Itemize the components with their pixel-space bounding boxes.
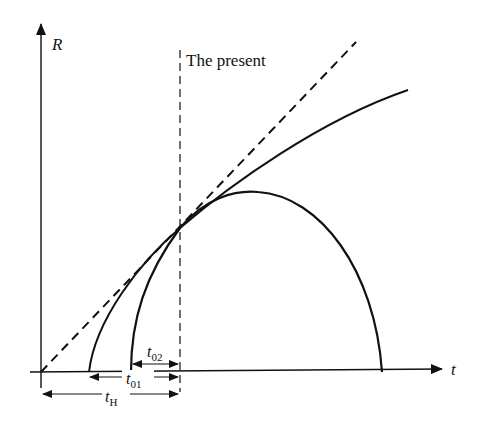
- x-axis-label: t: [451, 360, 457, 379]
- present-label: The present: [186, 51, 266, 70]
- t02-label: t02: [147, 343, 162, 363]
- empty-universe-line: [41, 42, 356, 372]
- y-axis-label: R: [51, 35, 63, 54]
- closed-universe-curve: [131, 192, 382, 372]
- cosmology-diagram: R t The present t02 t01 tH: [0, 0, 480, 421]
- open-universe-curve: [89, 90, 408, 372]
- x-axis: [30, 369, 442, 372]
